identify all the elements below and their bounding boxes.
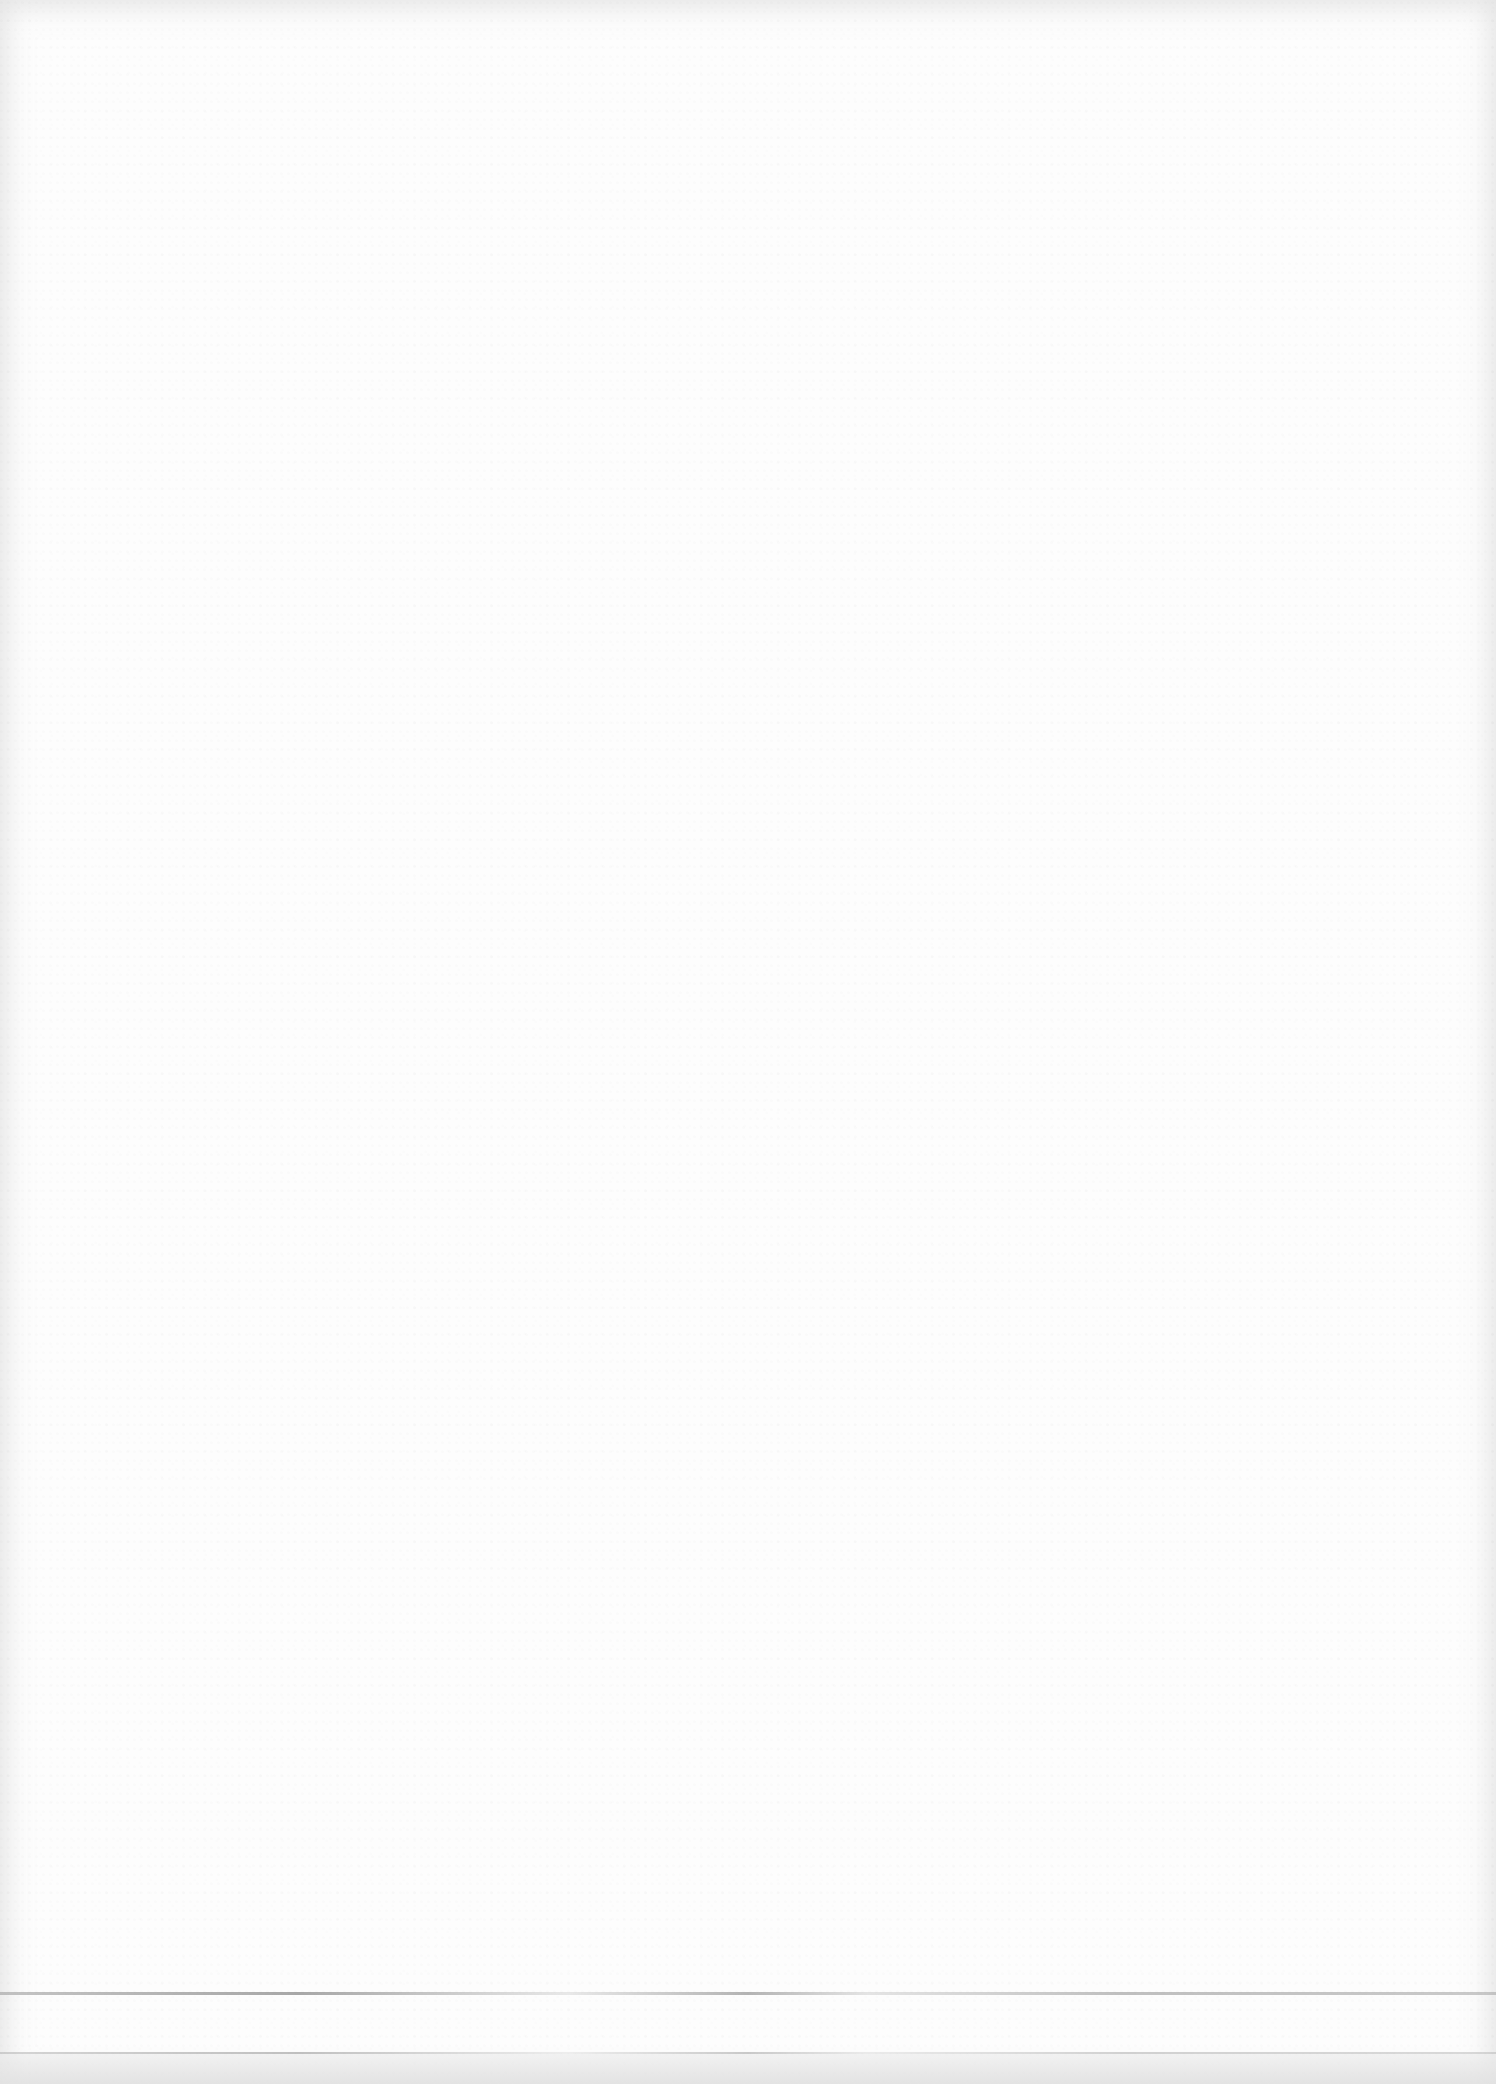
bottom-edge-band — [0, 2054, 1496, 2084]
paper-grain-texture — [0, 0, 1496, 2084]
horizontal-rule-upper — [0, 1992, 1496, 1995]
blank-paper-page — [0, 0, 1496, 2084]
